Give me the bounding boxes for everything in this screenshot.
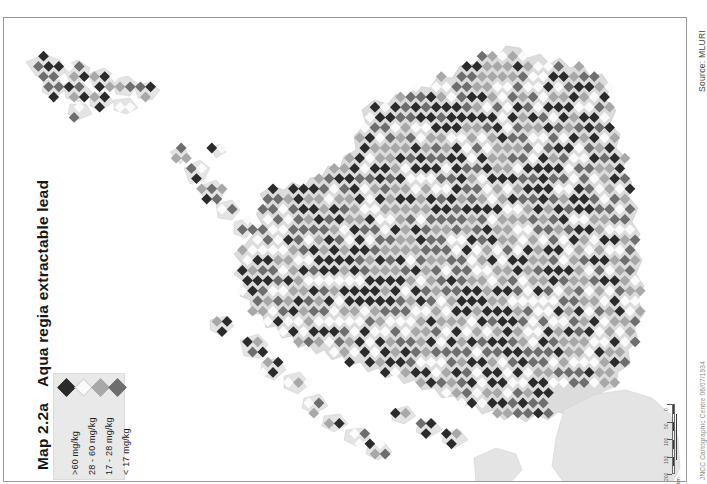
legend: >60 mg/kg28 - 60 mg/kg17 - 28 mg/kg< 17 …	[53, 373, 125, 480]
legend-swatch-diamond-icon	[57, 378, 75, 396]
legend-item: 17 - 28 mg/kg	[91, 374, 109, 481]
scale-bar-tick-label: 150	[663, 455, 669, 463]
legend-item: >60 mg/kg	[57, 374, 75, 481]
scale-bar-tick-label: 200	[663, 473, 669, 481]
scale-bar: 050100150200km	[663, 400, 683, 478]
map-number: Map 2.2a	[34, 403, 51, 470]
legend-swatch-diamond-icon	[74, 378, 92, 396]
cartography-credit: JNCC Cartographic Centre 06/07/1934	[699, 361, 706, 480]
legend-item-label: < 17 mg/kg	[121, 428, 131, 475]
page-title: Map 2.2aAqua regia extractable lead	[34, 180, 52, 470]
scale-bar-tick	[667, 404, 672, 405]
source-note: Source: MLURI	[697, 30, 707, 92]
scale-bar-tick-label: 50	[663, 423, 669, 429]
map-title-text: Aqua regia extractable lead	[34, 180, 51, 387]
scale-bar-tick-label: 0	[663, 408, 669, 411]
scale-bar-tick-label: 100	[663, 438, 669, 446]
scale-bar-units: km	[675, 477, 681, 484]
scale-bar-extent-line	[676, 414, 677, 460]
legend-swatch-diamond-icon	[108, 378, 126, 396]
southwest-coast-polygon	[474, 448, 522, 482]
legend-item: 28 - 60 mg/kg	[74, 374, 92, 481]
legend-item: < 17 mg/kg	[108, 374, 126, 481]
scale-bar-graphic	[672, 404, 675, 474]
legend-swatch-diamond-icon	[91, 378, 109, 396]
